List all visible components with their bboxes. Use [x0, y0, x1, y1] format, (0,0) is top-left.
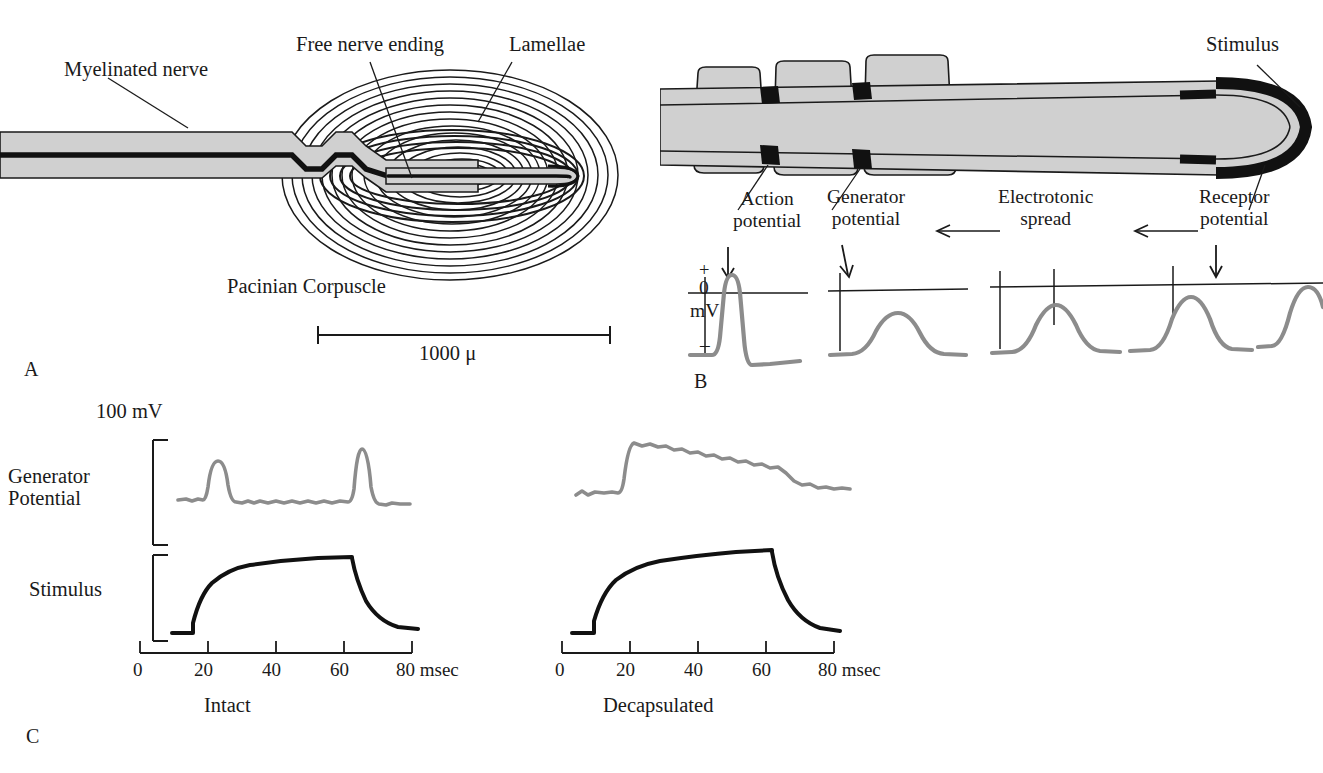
- x-tick-left-0: 0: [133, 660, 143, 681]
- label-action-potential-line2: potential: [733, 210, 801, 232]
- label-action-potential-line1: Action: [733, 188, 801, 210]
- label-generator-potential-row-line2: Potential: [8, 487, 90, 509]
- trace-generator-potential: [830, 313, 966, 355]
- caption-arrows: [722, 245, 1222, 278]
- panel-letter-b: B: [694, 371, 707, 393]
- label-electrotonic-spread: Electrotonic spread: [998, 186, 1093, 230]
- label-action-potential: Action potential: [733, 188, 801, 232]
- trace-electrotonic-spread-1: [992, 305, 1120, 353]
- label-generator-potential-row-line1: Generator: [8, 465, 90, 487]
- receptor-terminal-edge-lower: [1180, 159, 1216, 160]
- x-tick-right-0: 0: [555, 660, 565, 681]
- trace-generator-potential-decapsulated: [576, 443, 850, 495]
- label-receptor-potential-line1: Receptor: [1199, 186, 1269, 208]
- trace-tick-markers: [705, 266, 1173, 355]
- axis-label-minus: –: [700, 334, 710, 355]
- x-tick-left-60: 60: [330, 660, 349, 681]
- x-tick-right-40: 40: [684, 660, 703, 681]
- panel-a-title: Pacinian Corpuscle: [227, 275, 386, 297]
- panel-b-traces: [688, 266, 1323, 365]
- caption-decapsulated: Decapsulated: [603, 694, 713, 716]
- bracket-generator-potential-left: [153, 440, 168, 545]
- label-free-nerve-ending: Free nerve ending: [296, 33, 444, 55]
- x-tick-right-20: 20: [616, 660, 635, 681]
- x-tick-left-20: 20: [194, 660, 213, 681]
- axis-label-zero: 0: [699, 277, 709, 298]
- panel-letter-c: C: [26, 726, 39, 748]
- label-receptor-potential: Receptor potential: [1199, 186, 1269, 230]
- label-receptor-potential-line2: potential: [1199, 208, 1269, 230]
- label-stimulus-row: Stimulus: [29, 578, 102, 600]
- trace-electrotonic-spread-2: [1130, 297, 1252, 351]
- x-axis-left: [140, 641, 412, 653]
- label-lamellae: Lamellae: [509, 33, 585, 55]
- x-tick-right-60: 60: [752, 660, 771, 681]
- zero-baselines: [688, 283, 1323, 293]
- trace-receptor-potential: [1258, 287, 1323, 347]
- label-generator-potential-line1: Generator: [827, 186, 905, 208]
- trace-stimulus-decapsulated: [572, 550, 840, 633]
- trace-stimulus-intact: [172, 557, 418, 633]
- x-axis-left-unit: 80 msec: [396, 660, 459, 681]
- free-nerve-ending-core: [388, 176, 570, 177]
- x-axis-right-unit: 80 msec: [818, 660, 881, 681]
- label-myelinated-nerve: Myelinated nerve: [64, 58, 208, 80]
- label-electrotonic-spread-line2: spread: [998, 208, 1093, 230]
- label-generator-potential-row: Generator Potential: [8, 465, 90, 509]
- bracket-stimulus-left: [153, 555, 168, 641]
- label-generator-potential: Generator potential: [827, 186, 905, 230]
- x-axis-right: [562, 641, 834, 653]
- label-stimulus: Stimulus: [1206, 33, 1279, 55]
- label-electrotonic-spread-line1: Electrotonic: [998, 186, 1093, 208]
- scale-bar-label: 1000 μ: [419, 342, 476, 364]
- x-tick-left-40: 40: [262, 660, 281, 681]
- leader-line-myelinated-nerve: [108, 78, 188, 128]
- trace-generator-potential-intact: [178, 449, 410, 505]
- caption-intact: Intact: [204, 694, 251, 716]
- receptor-terminal-edge-upper: [1180, 94, 1216, 95]
- panel-letter-a: A: [24, 359, 38, 381]
- axis-label-mv: mV: [690, 300, 719, 321]
- label-100-mv: 100 mV: [96, 400, 163, 422]
- figure-root: Myelinated nerve Free nerve ending Lamel…: [0, 0, 1323, 773]
- label-generator-potential-line2: potential: [827, 208, 905, 230]
